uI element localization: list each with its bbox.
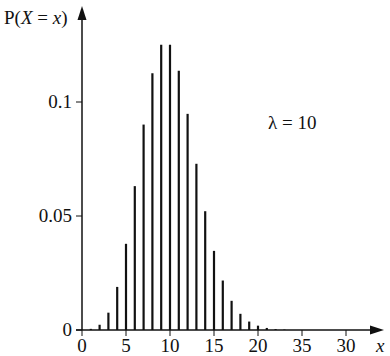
probability-bars — [91, 45, 285, 330]
x-tick-label: 15 — [205, 335, 224, 356]
x-tick-label: 10 — [161, 335, 180, 356]
y-tick-label: 0.05 — [39, 205, 72, 226]
x-axis-title: x — [375, 335, 385, 356]
x-tick-label: 5 — [121, 335, 131, 356]
axes — [76, 6, 384, 335]
y-axis-arrow-icon — [78, 6, 87, 20]
x-tick-label: 35 — [293, 335, 312, 356]
y-tick-label: 0 — [63, 319, 73, 340]
x-tick-label: 0 — [77, 335, 87, 356]
x-axis-arrow-icon — [370, 326, 384, 335]
y-ticks: 00.050.1 — [39, 91, 82, 340]
y-tick-label: 0.1 — [48, 91, 72, 112]
x-tick-label: 30 — [337, 335, 356, 356]
lambda-annotation: λ = 10 — [268, 112, 316, 133]
y-axis-title: P(X = x) — [4, 7, 68, 29]
poisson-chart: 051015203530 00.050.1 P(X = x) x λ = 10 — [0, 0, 390, 356]
x-tick-label: 20 — [249, 335, 268, 356]
x-ticks: 051015203530 — [77, 330, 355, 356]
